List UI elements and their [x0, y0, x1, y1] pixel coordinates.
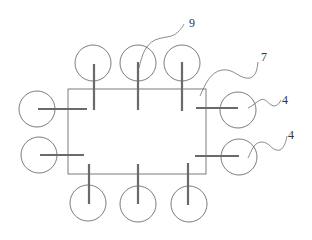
- label-9: 9: [189, 16, 195, 30]
- diagram-canvas: 9 7 4 4: [0, 0, 312, 240]
- circle-right-1: [220, 92, 256, 128]
- label-7: 7: [261, 50, 267, 64]
- label-4b: 4: [288, 128, 294, 142]
- top-circles: [75, 45, 200, 111]
- left-circles: [19, 91, 87, 173]
- label-4a: 4: [282, 93, 288, 107]
- leader-line-4b: [248, 136, 287, 158]
- leader-line-7: [200, 62, 258, 96]
- right-circles: [195, 92, 257, 175]
- bottom-circles: [70, 163, 207, 222]
